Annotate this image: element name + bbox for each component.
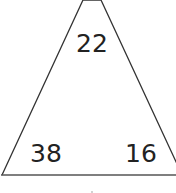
stray-dot (91, 191, 93, 193)
top-value: 22 (76, 29, 108, 58)
bottom-left-value: 38 (30, 139, 62, 168)
number-triangle-diagram: 22 38 16 (0, 0, 176, 193)
bottom-right-value: 16 (125, 139, 157, 168)
